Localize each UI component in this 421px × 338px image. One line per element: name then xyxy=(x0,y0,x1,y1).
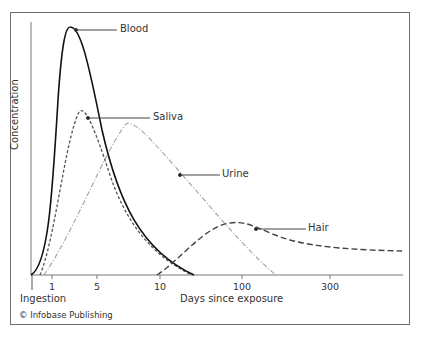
saliva-curve xyxy=(40,111,192,275)
tick-label-300: 300 xyxy=(321,281,339,292)
tick-label-5: 5 xyxy=(94,281,100,292)
origin-label: Ingestion xyxy=(20,293,66,304)
blood-curve xyxy=(31,27,194,275)
label-hair: Hair xyxy=(308,222,329,233)
hair-curve xyxy=(157,223,402,275)
credit-text: © Infobase Publishing xyxy=(19,310,113,320)
tick-label-100: 100 xyxy=(233,281,251,292)
y-axis-label: Concentration xyxy=(9,79,20,150)
annotation-leaders xyxy=(74,28,306,230)
label-blood: Blood xyxy=(120,23,148,34)
label-saliva: Saliva xyxy=(153,111,183,122)
tick-label-10: 10 xyxy=(154,281,166,292)
label-urine: Urine xyxy=(222,168,249,179)
x-ticks xyxy=(52,275,330,279)
chart-plot xyxy=(0,0,421,338)
x-axis-label: Days since exposure xyxy=(180,293,283,304)
tick-label-1: 1 xyxy=(49,281,55,292)
